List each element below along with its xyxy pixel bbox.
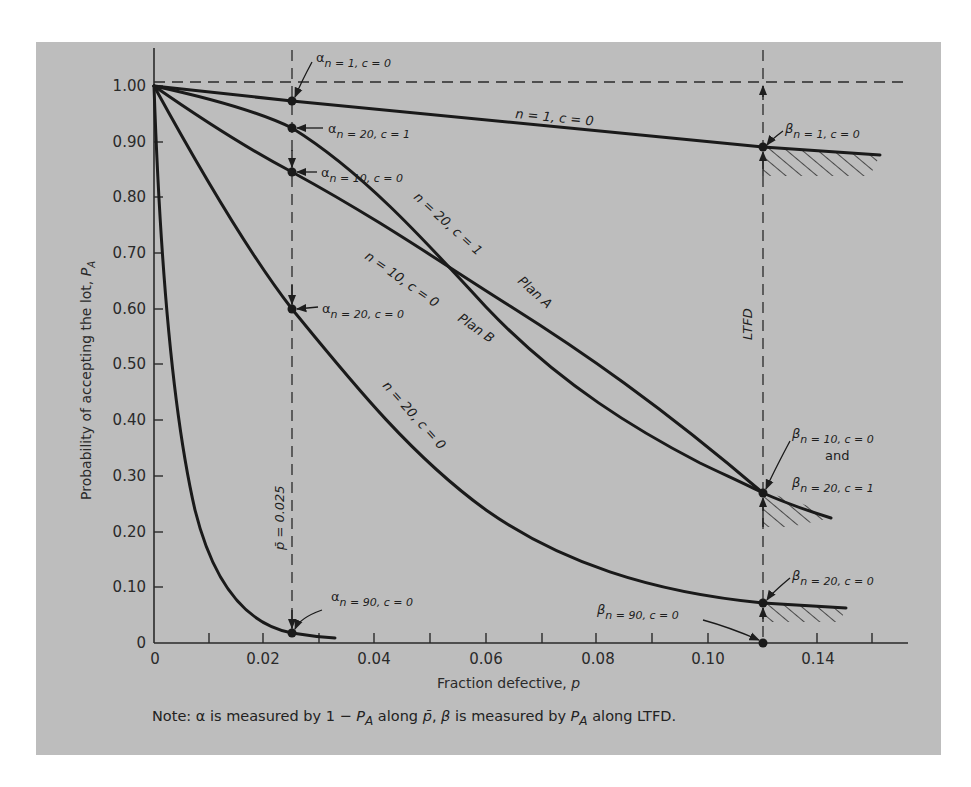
svg-text:0.10: 0.10 [113, 578, 146, 596]
svg-text:0.20: 0.20 [113, 523, 146, 541]
svg-text:0.40: 0.40 [113, 411, 146, 429]
svg-text:αn = 1, c = 0: αn = 1, c = 0 [316, 50, 391, 70]
curve-n10-c0 [154, 86, 831, 518]
svg-text:0: 0 [136, 634, 146, 652]
ltfd-label: LTFD [740, 308, 755, 340]
svg-text:αn = 90, c = 0: αn = 90, c = 0 [331, 589, 413, 609]
svg-text:0.02: 0.02 [246, 650, 279, 668]
svg-text:0.90: 0.90 [113, 133, 146, 151]
svg-text:αn = 20, c = 1: αn = 20, c = 1 [328, 121, 410, 141]
svg-text:and: and [825, 448, 849, 463]
svg-text:0.80: 0.80 [113, 188, 146, 206]
svg-text:0.10: 0.10 [691, 650, 724, 668]
svg-text:Plan B: Plan B [455, 310, 497, 346]
svg-text:0.14: 0.14 [801, 650, 834, 668]
svg-text:βn = 10, c = 0: βn = 10, c = 0 [791, 426, 874, 446]
svg-text:αn = 20, c = 0: αn = 20, c = 0 [322, 301, 404, 321]
svg-text:βn = 90, c = 0: βn = 90, c = 0 [596, 602, 679, 622]
svg-text:0.70: 0.70 [113, 244, 146, 262]
svg-text:0.04: 0.04 [357, 650, 390, 668]
svg-text:0.30: 0.30 [113, 467, 146, 485]
arrows [292, 62, 790, 640]
x-axis-title: Fraction defective, p [437, 675, 580, 691]
svg-text:βn = 20, c = 0: βn = 20, c = 0 [791, 568, 874, 588]
svg-text:βn = 20, c = 1: βn = 20, c = 1 [791, 475, 874, 495]
curve-labels: n = 1, c = 0 n = 20, c = 1 Plan A n = 10… [362, 0, 881, 452]
curve-n90-c0 [154, 86, 335, 638]
svg-text:0.50: 0.50 [113, 355, 146, 373]
svg-text:n = 20, c = 0: n = 20, c = 0 [380, 378, 449, 453]
svg-text:n = 20, c = 1: n = 20, c = 1 [411, 189, 486, 258]
oc-curve-chart: 0 0.10 0.20 0.30 0.40 0.50 0.60 0.70 0.8… [0, 0, 971, 787]
svg-text:1.00: 1.00 [113, 77, 146, 95]
svg-text:0.60: 0.60 [113, 300, 146, 318]
svg-text:0.06: 0.06 [469, 650, 502, 668]
hatch-regions [763, 147, 880, 622]
alpha-annotations: αn = 1, c = 0 αn = 20, c = 1 αn = 10, c … [316, 50, 413, 609]
svg-text:n = 10, c = 0: n = 10, c = 0 [362, 248, 442, 310]
curve-n20-c0 [154, 86, 846, 608]
pbar-label: p̄ = 0.025 [272, 485, 287, 551]
y-tick-labels: 0 0.10 0.20 0.30 0.40 0.50 0.60 0.70 0.8… [113, 77, 146, 652]
x-tick-labels: 0 0.02 0.04 0.06 0.08 0.10 0.14 [150, 650, 834, 668]
figure-note: Note: α is measured by 1 − PA along p̄, … [152, 708, 676, 728]
svg-text:0: 0 [150, 650, 160, 668]
svg-text:βn = 1, c = 0: βn = 1, c = 0 [784, 121, 860, 141]
svg-text:αn = 10, c = 0: αn = 10, c = 0 [321, 165, 403, 185]
beta-annotations: βn = 1, c = 0 βn = 10, c = 0 and βn = 20… [596, 121, 874, 622]
svg-text:Plan A: Plan A [515, 273, 555, 311]
svg-text:0.08: 0.08 [581, 650, 614, 668]
y-axis-title: Probability of accepting the lot, PA [78, 261, 97, 500]
